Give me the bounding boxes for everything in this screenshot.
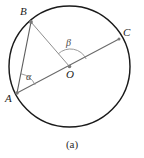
figure-caption: (a) bbox=[0, 139, 144, 150]
point-label-o: O bbox=[66, 69, 74, 80]
angle-label-alpha: α bbox=[26, 72, 31, 82]
point-label-a: A bbox=[5, 93, 12, 104]
figure-container: B C O A α β (a) bbox=[0, 0, 144, 158]
segment-bo-radius bbox=[31, 22, 70, 67]
point-label-b: B bbox=[20, 6, 27, 17]
point-label-c: C bbox=[123, 27, 130, 38]
point-c-dot bbox=[118, 38, 121, 41]
point-b-dot bbox=[29, 20, 33, 24]
angle-arc-beta bbox=[58, 49, 86, 59]
point-a-dot bbox=[15, 91, 19, 95]
angle-label-beta: β bbox=[66, 38, 71, 48]
